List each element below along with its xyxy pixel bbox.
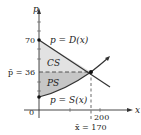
x-axis-label: x [135, 105, 140, 115]
x-tick-200-label: 200 [94, 113, 109, 122]
supply-intercept-point [37, 95, 41, 99]
equilibrium-point [89, 70, 93, 74]
y-axis-label: p [33, 4, 39, 14]
y-intercept-label: 70 [25, 36, 35, 45]
demand-label: p = D(x) [50, 35, 89, 45]
cs-label: CS [47, 58, 60, 68]
origin-label: 0 [29, 108, 34, 117]
demand-intercept-point [37, 38, 41, 42]
surplus-chart: p x 0 70 p = D(x) CS PS p = S(x) p̄ = 36… [0, 0, 141, 135]
x-axis-arrow-icon [127, 108, 133, 112]
ps-label: PS [46, 78, 59, 88]
x-bar-label: x̄ = 170 [75, 123, 107, 132]
supply-label: p = S(x) [50, 95, 88, 105]
p-bar-label: p̄ = 36 [8, 68, 35, 77]
